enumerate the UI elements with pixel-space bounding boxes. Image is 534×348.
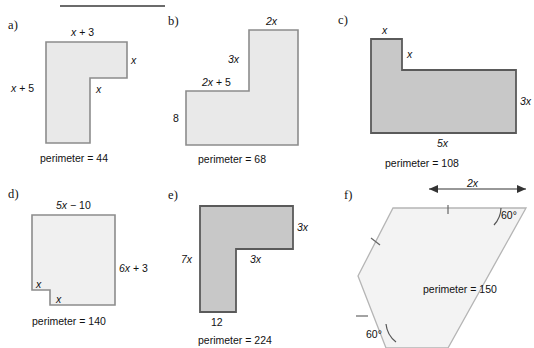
figure-a-label-notch: x — [96, 84, 101, 95]
figure-b-label-left: 8 — [173, 113, 179, 124]
shape-d-polygon — [32, 215, 115, 305]
figure-d-label-top: 5x − 10 — [56, 200, 91, 211]
shape-c-polygon — [371, 39, 516, 133]
figure-b-label-inner-vertical: 3x — [228, 54, 239, 65]
figure-a-label-left: x + 5 — [11, 83, 34, 94]
figure-a-perimeter: perimeter = 44 — [40, 152, 108, 164]
figure-e-label-inner-horizontal: 3x — [250, 254, 261, 265]
figure-c-label-top-stem: x — [382, 25, 387, 36]
figure-f-label-angle-top-right: 60° — [501, 210, 517, 221]
figure-f-label-angle-bottom-left: 60° — [366, 329, 382, 340]
figure-c-label-bottom: 5x — [437, 138, 448, 149]
figure-b-drawing — [160, 0, 335, 172]
figure-c-perimeter: perimeter = 108 — [385, 157, 459, 169]
figure-c-label-stem-inner: x — [407, 49, 412, 60]
figure-panel-b: b) 2x 3x 2x + 5 8 perimeter = 68 — [160, 0, 335, 172]
shape-f-polygon — [358, 208, 526, 348]
figure-c-label-right: 3x — [520, 96, 531, 107]
figure-a-label-right-upper: x — [131, 55, 136, 66]
shape-a-polygon — [46, 42, 127, 143]
figure-d-label-notch-vertical: x — [36, 279, 41, 290]
figure-d-perimeter: perimeter = 140 — [32, 315, 106, 327]
figure-a-label-top: x + 3 — [71, 27, 94, 38]
figure-f-perimeter: perimeter = 150 — [423, 283, 497, 295]
figure-f-drawing — [330, 172, 534, 348]
figure-e-label-bottom: 12 — [211, 317, 223, 328]
shape-e-polygon — [200, 206, 293, 312]
figure-d-label-right: 6x + 3 — [119, 263, 148, 274]
figure-d-label-notch-horizontal: x — [56, 294, 61, 305]
figure-panel-c: c) x x 3x 5x perimeter = 108 — [330, 0, 534, 172]
figure-e-label-right: 3x — [297, 222, 308, 233]
figure-e-perimeter: perimeter = 224 — [198, 334, 272, 346]
worksheet-page: a) x + 3 x x x + 5 perimeter = 44 b) 2x … — [0, 0, 534, 348]
figure-f-label-dimension: 2x — [467, 178, 478, 189]
figure-panel-e: e) 3x 3x 7x 12 perimeter = 224 — [160, 172, 335, 348]
figure-panel-d: d) 5x − 10 6x + 3 x x perimeter = 140 — [0, 172, 178, 348]
figure-e-label-left: 7x — [181, 254, 192, 265]
figure-b-label-step-width: 2x + 5 — [202, 77, 231, 88]
figure-panel-f: f) 2x 60° 60° perimeter = 150 — [330, 172, 534, 348]
figure-b-perimeter: perimeter = 68 — [198, 153, 266, 165]
figure-c-drawing — [330, 0, 534, 172]
figure-b-label-top: 2x — [266, 16, 277, 27]
figure-panel-a: a) x + 3 x x x + 5 perimeter = 44 — [0, 0, 178, 172]
